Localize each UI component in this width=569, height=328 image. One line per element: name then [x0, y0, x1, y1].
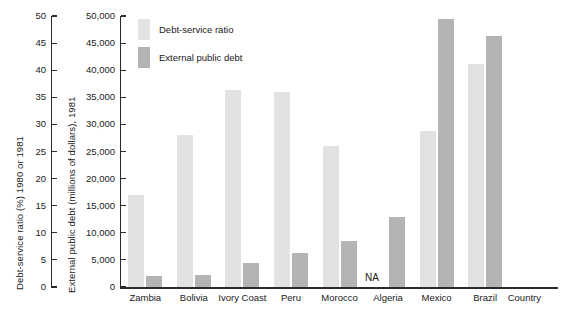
axis-tick-label: 10,000 — [63, 227, 115, 238]
axis-end-cap — [52, 15, 57, 16]
axis-tick-label: 40 — [2, 64, 46, 75]
axis-tick-label: 30,000 — [63, 118, 115, 129]
axis-tick-label: 25,000 — [63, 146, 115, 157]
axis-tick — [52, 124, 57, 125]
axis-tick — [52, 205, 57, 206]
bar-debt-service-ratio — [225, 90, 241, 287]
axis-tick-label: 40,000 — [63, 64, 115, 75]
axis-tick-label: 10 — [2, 227, 46, 238]
bar-group — [420, 16, 454, 287]
axis-tick — [52, 43, 57, 44]
axis-tick-label: 5,000 — [63, 254, 115, 265]
axis-tick — [52, 97, 57, 98]
axis-tick — [52, 70, 57, 71]
bar-external-public-debt — [146, 276, 162, 287]
bar-group — [128, 16, 162, 287]
axis-tick-label: 25 — [2, 146, 46, 157]
bar-external-public-debt — [243, 263, 259, 287]
x-axis-title: Country — [508, 292, 541, 303]
bar-external-public-debt — [341, 241, 357, 287]
bar-external-public-debt — [292, 253, 308, 287]
axis-tick-label: 50,000 — [63, 10, 115, 21]
bar-group: NA — [371, 16, 405, 287]
bar-group — [225, 16, 259, 287]
bar-external-public-debt — [389, 217, 405, 287]
x-axis-spine — [120, 287, 558, 289]
bar-debt-service-ratio — [128, 195, 144, 287]
axis-tick-label: 35 — [2, 91, 46, 102]
axis-tick-label: 20,000 — [63, 173, 115, 184]
bar-debt-service-ratio — [274, 92, 290, 287]
na-annotation: NA — [365, 272, 379, 283]
axis-tick-label: 50 — [2, 10, 46, 21]
axis-tick-label: 5 — [2, 254, 46, 265]
axis-tick-label: 20 — [2, 173, 46, 184]
axis-tick-label: 15,000 — [63, 200, 115, 211]
bar-group — [177, 16, 211, 287]
axis-tick — [52, 259, 57, 260]
bar-group — [323, 16, 357, 287]
bar-external-public-debt — [195, 275, 211, 287]
axis-tick-label: 45,000 — [63, 37, 115, 48]
axis-tick — [52, 151, 57, 152]
axis-tick-label: 15 — [2, 200, 46, 211]
bar-debt-service-ratio — [468, 64, 484, 287]
axis-tick — [52, 232, 57, 233]
plot-area: NA — [121, 16, 558, 287]
y-axis-left-title: Debt-service ratio (%) 1980 or 1981 — [14, 136, 25, 290]
axis-tick-label: 45 — [2, 37, 46, 48]
axis-end-cap — [52, 286, 57, 287]
axis-tick-label: 30 — [2, 118, 46, 129]
bar-group — [274, 16, 308, 287]
bar-group — [468, 16, 502, 287]
axis-tick-label: 0 — [63, 281, 115, 292]
axis-tick-label: 0 — [2, 281, 46, 292]
axis-tick-label: 35,000 — [63, 91, 115, 102]
chart-figure: Debt-service ratio (%) 1980 or 1981 Exte… — [0, 0, 569, 328]
bar-debt-service-ratio — [177, 135, 193, 287]
bar-debt-service-ratio — [323, 146, 339, 287]
axis-tick — [52, 178, 57, 179]
bar-external-public-debt — [438, 19, 454, 287]
bar-debt-service-ratio — [420, 131, 436, 287]
bar-external-public-debt — [486, 36, 502, 287]
